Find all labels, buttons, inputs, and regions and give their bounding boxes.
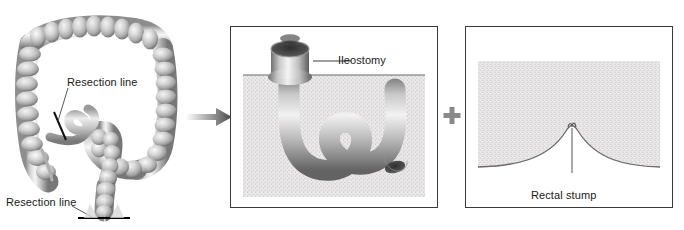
plus-icon: [440, 103, 464, 129]
label-resection-line-upper: Resection line: [67, 76, 138, 88]
panel-ileostomy: Ileostomy: [230, 26, 438, 208]
medical-illustration-figure: Resection line Resection line: [0, 0, 684, 230]
label-rectal-stump: Rectal stump: [531, 189, 596, 201]
ileum-loop: [50, 109, 95, 141]
ileostomy-drawing: [231, 27, 437, 207]
stoma-flange: [268, 69, 312, 85]
label-ileostomy: Ileostomy: [338, 54, 386, 66]
pelvic-tissue-texture: [478, 61, 660, 171]
panel-rectal-stump: Rectal stump: [465, 26, 673, 208]
panel-colon-anatomy: Resection line Resection line: [0, 0, 196, 230]
haustra-sigmoid: [91, 129, 142, 219]
label-resection-line-lower: Resection line: [6, 196, 77, 208]
rectal-stump-drawing: [466, 27, 672, 207]
arrow-right-icon: [186, 104, 234, 130]
